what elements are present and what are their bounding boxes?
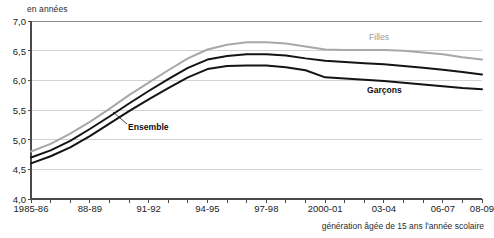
x-tick-label: 03-04 xyxy=(372,203,396,214)
x-tick-label: 97-98 xyxy=(254,203,278,214)
x-tick-label: 06-07 xyxy=(431,203,455,214)
x-tick-label: 91-92 xyxy=(136,203,160,214)
x-axis-caption: génération âgée de 15 ans l'année scolai… xyxy=(322,221,484,231)
series-label-garcons: Garçons xyxy=(367,85,402,95)
x-tick-label: 1985-86 xyxy=(14,203,49,214)
x-tick-label: 2000-01 xyxy=(308,203,343,214)
x-tick-label: 94-95 xyxy=(195,203,219,214)
series-label-ensemble: Ensemble xyxy=(128,122,169,132)
series-label-filles: Filles xyxy=(369,32,389,42)
x-tick-label: 08-09 xyxy=(470,203,494,214)
x-tick-label: 88-89 xyxy=(78,203,102,214)
